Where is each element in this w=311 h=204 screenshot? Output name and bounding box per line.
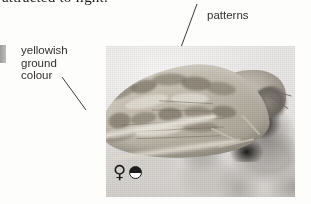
callout-yellowish-ground-colour: yellowish ground colour [21,44,68,82]
figure-page: attracted to light. yellowish ground col… [0,0,311,204]
running-text-cutoff: attracted to light. [2,0,108,6]
half-filled-circle-symbol [129,166,142,179]
ground-colour-leader-line [62,77,86,110]
callout-patterns: patterns [207,0,249,21]
margin-tab [0,45,6,63]
callout-patterns-label: patterns [207,9,249,21]
specimen-symbols: ♀ [113,163,142,181]
female-symbol: ♀ [113,163,126,181]
